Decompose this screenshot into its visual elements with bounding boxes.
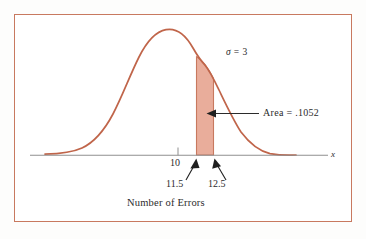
shaded-area-region [197,57,214,155]
lower-bound-arrowhead-icon [190,159,199,169]
sigma-label: σ = 3 [226,48,248,58]
normal-curve [45,29,296,155]
tick-label-lower-bound: 11.5 [166,179,183,189]
upper-bound-arrowhead-icon [212,159,221,169]
sigma-value-text: = 3 [231,47,247,57]
tick-label-mean: 10 [170,158,180,168]
area-annotation-label: Area = .1052 [263,108,319,118]
figure-container: σ = 3 Area = .1052 x 10 11.5 12.5 Number… [0,0,366,239]
figure-caption: Number of Errors [127,198,205,209]
x-axis-label: x [331,150,335,159]
tick-label-upper-bound: 12.5 [208,179,226,189]
